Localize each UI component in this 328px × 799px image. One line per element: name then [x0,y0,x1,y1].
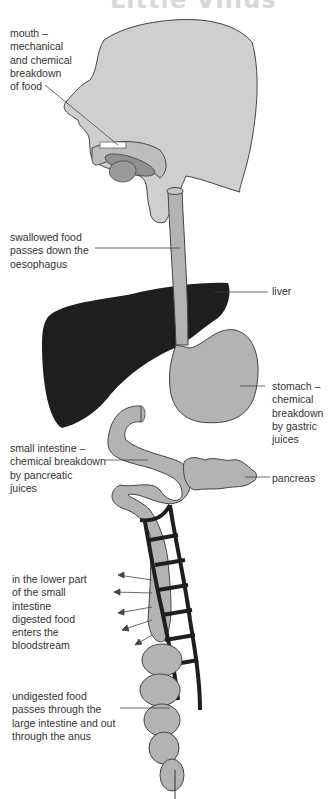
label-large-intestine: undigested food passes through the large… [12,690,115,743]
oesophagus-top [167,188,183,195]
label-stomach: stomach – chemical breakdown by gastric … [272,380,323,446]
head-shape [64,20,257,223]
label-oesophagus: swallowed food passes down the oesophagu… [10,231,89,271]
pancreas-shape [183,458,256,490]
label-absorption: in the lower part of the small intestine… [12,573,87,653]
teeth [100,142,126,148]
large-intestine-shape [140,644,184,791]
label-liver: liver [272,285,291,298]
label-small-intestine: small intestine – chemical breakdown by … [10,442,106,495]
small-intestine-shape [108,406,191,642]
label-pancreas: pancreas [272,472,315,485]
absorption-arrows [114,572,152,645]
label-mouth: mouth – mechanical and chemical breakdow… [10,27,72,93]
salivary-gland-shape [109,161,136,182]
